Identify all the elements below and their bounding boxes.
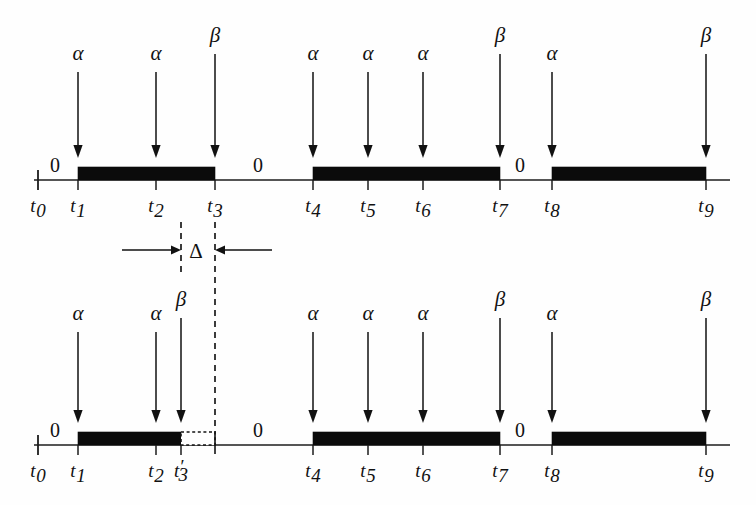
delta-symbol: Δ [189,239,203,263]
event-symbol-bot-ev-9: β [700,287,712,311]
event-arrow-head-top-ev-7 [495,145,504,158]
tick-label-t2: t2 [148,195,164,221]
pulse-bot-pulse-3 [552,432,706,445]
event-symbol-top-ev-7: β [494,23,506,47]
event-marker-top-ev-9: β [700,23,712,158]
zero-label-top-zero-1: 0 [50,154,60,176]
event-symbol-top-ev-9: β [700,23,712,47]
tick-label-t3: t3 [207,195,222,221]
event-arrow-head-top-ev-1 [73,145,82,158]
zero-label-bot-zero-3: 0 [515,419,525,441]
delta-left-arrowhead [171,245,181,254]
event-marker-bot-ev-7: β [494,287,506,423]
event-symbol-top-ev-3: β [209,23,221,47]
event-symbol-bot-ev-8: α [546,301,558,325]
event-marker-bot-ev-4: α [307,301,319,423]
tick-label-t4: t4 [305,195,321,221]
event-marker-bot-ev-8: α [546,301,558,423]
event-symbol-bot-ev-5: α [362,301,374,325]
pulse-top-pulse-1 [78,167,215,180]
pulse-top-pulse-2 [313,167,500,180]
event-marker-bot-ev-1: α [72,301,84,423]
tick-label-b-t9: t9 [698,460,714,486]
event-marker-bot-ev-6: α [417,301,429,423]
tick-label-b-t3p: t′3 [174,456,188,485]
tick-label-t9: t9 [698,195,714,221]
tick-label-b-t2: t2 [148,460,164,486]
event-marker-top-ev-2: α [150,41,162,158]
event-arrow-head-bot-ev-3 [176,410,185,423]
event-symbol-top-ev-5: α [362,41,374,65]
delta-annotation-group: Δ [122,222,272,430]
event-symbol-top-ev-4: α [307,41,319,65]
event-arrow-head-bot-ev-1 [73,410,82,423]
pulse-ghost-bot-pulse-1-ghost [181,432,215,445]
timing-diagram-svg: t0t1t2t3t4t5t6t7t8t9000ααβαααβαβ t0t1t2t… [0,0,756,505]
tick-label-b-t7: t7 [492,460,509,486]
event-arrow-head-top-ev-3 [210,145,219,158]
event-arrow-head-bot-ev-7 [495,410,504,423]
tick-label-t5: t5 [360,195,375,221]
tick-label-b-t0: t0 [30,460,46,486]
tick-label-b-t5: t5 [360,460,375,486]
event-arrow-head-top-ev-8 [547,145,556,158]
event-arrow-head-top-ev-5 [363,145,372,158]
zero-label-top-zero-2: 0 [253,154,263,176]
event-arrow-head-bot-ev-4 [308,410,317,423]
event-marker-bot-ev-5: α [362,301,374,423]
event-symbol-bot-ev-2: α [150,301,162,325]
pulse-bot-pulse-1 [78,432,181,445]
event-symbol-top-ev-1: α [72,41,84,65]
tick-label-b-t6: t6 [415,460,431,486]
tick-label-b-t8: t8 [544,460,560,486]
event-marker-bot-ev-2: α [150,301,162,423]
zero-label-top-zero-3: 0 [515,154,525,176]
pulse-top-pulse-3 [552,167,706,180]
event-marker-top-ev-3: β [209,23,221,158]
zero-label-bot-zero-1: 0 [50,419,60,441]
bottom-timeline-group: t0t1t2t′3t4t5t6t7t8t9000ααβαααβαβ [30,287,730,486]
delta-right-arrowhead [215,245,225,254]
event-marker-top-ev-5: α [362,41,374,158]
tick-label-t0: t0 [30,195,46,221]
event-symbol-top-ev-8: α [546,41,558,65]
tick-label-t7: t7 [492,195,509,221]
event-symbol-bot-ev-6: α [417,301,429,325]
event-symbol-bot-ev-1: α [72,301,84,325]
event-symbol-bot-ev-3: β [175,287,187,311]
event-arrow-head-top-ev-4 [308,145,317,158]
event-symbol-top-ev-2: α [150,41,162,65]
event-symbol-top-ev-6: α [417,41,429,65]
event-symbol-bot-ev-4: α [307,301,319,325]
event-arrow-head-bot-ev-6 [418,410,427,423]
event-arrow-head-top-ev-2 [151,145,160,158]
event-arrow-head-bot-ev-8 [547,410,556,423]
tick-label-t8: t8 [544,195,560,221]
tick-label-b-t4: t4 [305,460,321,486]
event-arrow-head-bot-ev-9 [701,410,710,423]
zero-label-bot-zero-2: 0 [253,419,263,441]
tick-label-b-t1: t1 [70,460,85,486]
event-marker-top-ev-8: α [546,41,558,158]
timing-diagram-figure: t0t1t2t3t4t5t6t7t8t9000ααβαααβαβ t0t1t2t… [0,0,756,505]
event-arrow-head-top-ev-6 [418,145,427,158]
event-arrow-head-bot-ev-5 [363,410,372,423]
event-arrow-head-top-ev-9 [701,145,710,158]
event-symbol-bot-ev-7: β [494,287,506,311]
event-marker-top-ev-7: β [494,23,506,158]
event-marker-top-ev-6: α [417,41,429,158]
tick-label-t6: t6 [415,195,431,221]
tick-label-t1: t1 [70,195,85,221]
event-marker-top-ev-4: α [307,41,319,158]
pulse-bot-pulse-2 [313,432,500,445]
event-arrow-head-bot-ev-2 [151,410,160,423]
top-timeline-group: t0t1t2t3t4t5t6t7t8t9000ααβαααβαβ [30,23,730,221]
event-marker-bot-ev-3: β [175,287,187,423]
event-marker-bot-ev-9: β [700,287,712,423]
event-marker-top-ev-1: α [72,41,84,158]
